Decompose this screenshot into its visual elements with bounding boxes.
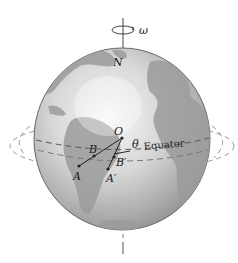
point-a-prime-label: A′ (105, 172, 117, 185)
point-a-label: A (72, 170, 81, 183)
center-o-label: O (114, 125, 123, 138)
point-b-prime-label: B′ (115, 156, 127, 169)
omega-label: ω (139, 24, 148, 37)
earth-diagram: ω N (0, 0, 238, 263)
point-b-label: B (88, 143, 97, 156)
north-label: N (112, 56, 123, 69)
theta-label: θ (132, 138, 139, 151)
